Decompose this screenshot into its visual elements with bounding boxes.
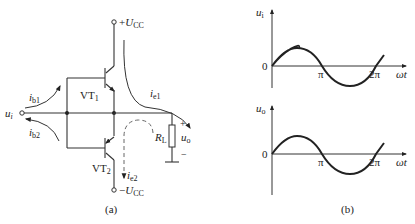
ui-xlabel: ωt bbox=[396, 68, 408, 80]
output-label: uo bbox=[181, 131, 191, 145]
waveform-uo: uo 0 π 2π ωt bbox=[256, 102, 408, 195]
uo-pi-tick: π bbox=[318, 156, 324, 168]
input-label: ui bbox=[5, 107, 13, 121]
circuit-a: +UCC VT1 ui ib1 ib2 bbox=[5, 16, 191, 216]
uo-sine-curve bbox=[272, 136, 384, 174]
vt1-label: VT1 bbox=[80, 89, 99, 103]
ui-pi-tick: π bbox=[318, 68, 324, 80]
supply-positive-label: +UCC bbox=[119, 16, 144, 30]
supply-negative-label: −UCC bbox=[119, 184, 144, 198]
uo-ylabel: uo bbox=[256, 102, 266, 116]
transistor-vt1 bbox=[105, 68, 114, 113]
load-label: RL bbox=[154, 131, 167, 145]
terminal-positive-supply bbox=[112, 20, 116, 24]
uo-origin: 0 bbox=[262, 148, 268, 160]
caption-a: (a) bbox=[105, 203, 118, 216]
terminal-negative-supply bbox=[112, 188, 116, 192]
ib1-label: ib1 bbox=[29, 91, 40, 105]
ie1-label: ie1 bbox=[150, 87, 161, 101]
ui-origin: 0 bbox=[262, 60, 268, 72]
ie2-label: ie2 bbox=[127, 169, 138, 183]
output-minus: − bbox=[181, 149, 187, 160]
uo-xlabel: ωt bbox=[396, 156, 408, 168]
terminal-input bbox=[20, 111, 24, 115]
vt2-label: VT2 bbox=[92, 162, 111, 176]
diagram-canvas: +UCC VT1 ui ib1 ib2 bbox=[0, 0, 415, 224]
ie1-arrow bbox=[124, 40, 190, 128]
ib2-label: ib2 bbox=[29, 126, 40, 140]
caption-b: (b) bbox=[341, 203, 354, 216]
transistor-vt2 bbox=[105, 113, 114, 188]
junction-dot bbox=[65, 111, 69, 115]
load-resistor bbox=[169, 125, 175, 147]
waveform-ui: ui 0 π 2π ωt bbox=[256, 6, 408, 88]
ui-ylabel: ui bbox=[256, 6, 265, 20]
